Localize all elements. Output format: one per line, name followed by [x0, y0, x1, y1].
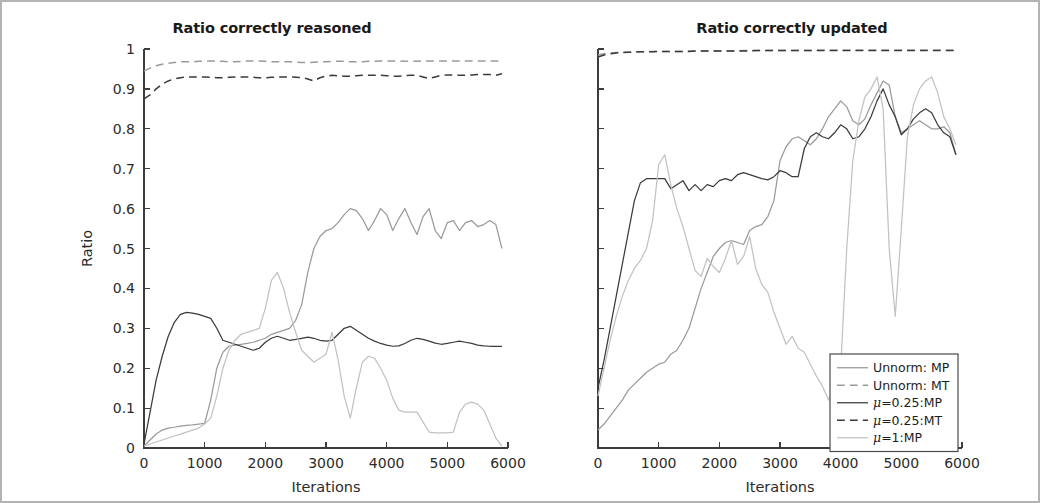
y-axis-title: Ratio: [79, 230, 95, 267]
plot-area-left: 010002000300040005000600000.10.20.30.40.…: [2, 2, 542, 503]
y-tick-label-1: 0.1: [113, 400, 135, 416]
series-line-1: [598, 50, 956, 55]
plot-area-right: 0100020003000400050006000IterationsUnnor…: [542, 2, 1040, 503]
x-tick-label-3000: 3000: [762, 455, 798, 471]
y-tick-label-3: 0.3: [113, 320, 135, 336]
x-tick-label-2000: 2000: [702, 455, 738, 471]
legend-label-2: μ=0.25:MP: [873, 395, 942, 410]
y-tick-label-5: 0.5: [113, 241, 135, 257]
series-line-1: [144, 61, 502, 71]
y-tick-label-7: 0.7: [113, 161, 135, 177]
series-line-2: [598, 89, 956, 388]
series-line-0: [144, 209, 502, 446]
x-tick-label-1000: 1000: [641, 455, 677, 471]
x-tick-label-6000: 6000: [944, 455, 980, 471]
series-line-3: [598, 51, 956, 57]
figure-canvas: Ratio correctly reasoned 010002000300040…: [2, 2, 1038, 501]
legend-label-1: Unnorm: MT: [873, 378, 950, 393]
y-tick-label-2: 0.2: [113, 360, 135, 376]
y-tick-label-10: 1: [126, 41, 135, 57]
series-line-4: [598, 77, 956, 400]
chart-panel-left: Ratio correctly reasoned 010002000300040…: [2, 2, 542, 503]
x-axis-title: Iterations: [745, 479, 814, 495]
y-tick-label-9: 0.9: [113, 81, 135, 97]
y-tick-label-8: 0.8: [113, 121, 135, 137]
x-tick-label-3000: 3000: [308, 455, 344, 471]
axis-spines: [144, 49, 508, 448]
legend-label-4: μ=1:MP: [873, 430, 923, 445]
y-tick-label-4: 0.4: [113, 280, 135, 296]
figure-root: Ratio correctly reasoned 010002000300040…: [0, 0, 1040, 503]
y-tick-label-6: 0.6: [113, 201, 135, 217]
x-tick-label-6000: 6000: [490, 455, 526, 471]
x-tick-label-4000: 4000: [369, 455, 405, 471]
x-tick-label-2000: 2000: [248, 455, 284, 471]
x-tick-label-5000: 5000: [430, 455, 466, 471]
x-axis-title: Iterations: [291, 479, 360, 495]
chart-panel-right: Ratio correctly updated 0100020003000400…: [542, 2, 1040, 503]
series-line-4: [144, 272, 502, 446]
x-tick-label-5000: 5000: [884, 455, 920, 471]
legend-label-0: Unnorm: MP: [873, 360, 950, 375]
x-tick-label-0: 0: [594, 455, 603, 471]
legend: Unnorm: MPUnnorm: MTμ=0.25:MPμ=0.25:MTμ=…: [830, 354, 958, 452]
x-tick-label-4000: 4000: [823, 455, 859, 471]
x-tick-label-0: 0: [140, 455, 149, 471]
y-tick-label-0: 0: [126, 440, 135, 456]
series-line-3: [144, 74, 502, 99]
x-tick-label-1000: 1000: [187, 455, 223, 471]
legend-label-3: μ=0.25:MT: [873, 413, 942, 428]
